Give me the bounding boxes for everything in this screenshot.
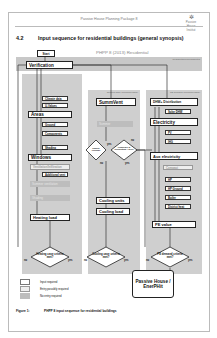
heating-no-label: no — [24, 259, 27, 262]
figure-number: Figure 1: — [16, 309, 29, 313]
cooling-yes-label: yes — [124, 259, 128, 262]
pe-no-label: no — [146, 259, 149, 262]
pe-yes-label: yes — [188, 259, 192, 262]
overheating-decision: Frequency of overheating > 10%? — [114, 146, 134, 151]
legend-swatch-input — [20, 279, 30, 285]
cooling-decision: Cooling case criteria met? — [92, 253, 120, 259]
result-node: Passive House / EnerPHit — [132, 270, 174, 298]
decision-diamonds — [0, 0, 217, 338]
overheating-no-label: no — [131, 139, 134, 142]
figure-caption: PHPP 8 input sequence for residential bu… — [44, 309, 117, 313]
legend-label-none: No entry required — [40, 294, 62, 298]
heating-yes-label: yes — [68, 259, 72, 262]
passive-cooling-no-label: no — [100, 162, 103, 165]
legend-swatch-none — [20, 293, 30, 299]
legend-swatch-possible — [20, 286, 30, 292]
passive-cooling-yes-label: yes — [107, 143, 111, 146]
passive-cooling-decision: Passive cooling? — [88, 147, 104, 152]
legend-label-possible: Entry possibly required — [40, 287, 68, 291]
cooling-no-label: no — [84, 259, 87, 262]
overheating-yes-label: yes — [125, 162, 129, 165]
heating-decision: Heating case criteria met? — [36, 253, 64, 259]
pe-decision: PE demand criteria met? — [156, 253, 184, 259]
legend-label-input: Input required — [40, 280, 57, 284]
